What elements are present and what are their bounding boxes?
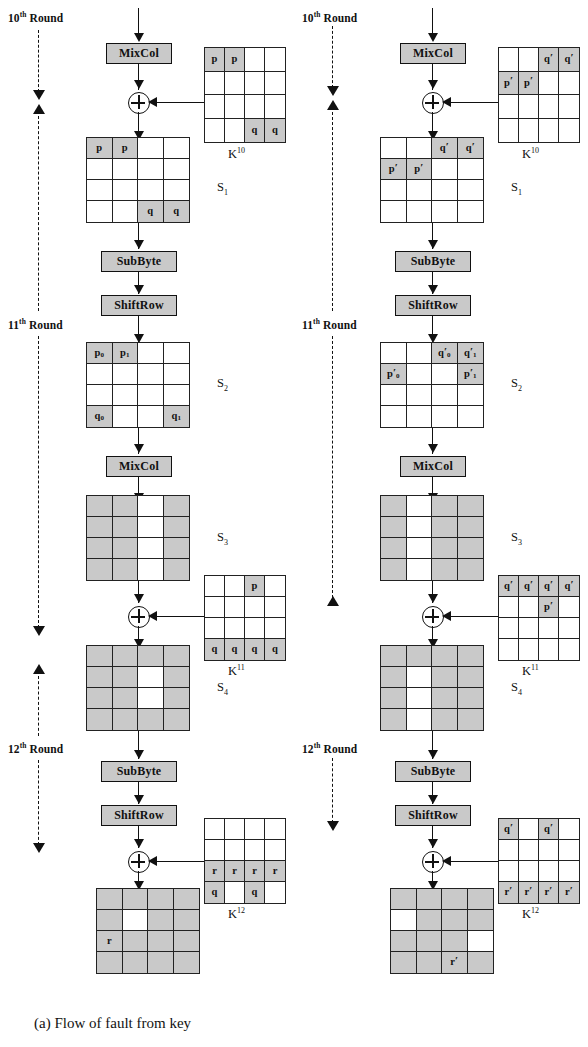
matrix-cell [138, 538, 164, 559]
round-span-line-12b [38, 760, 39, 845]
matrix-cell [432, 406, 458, 427]
matrix-k10: q′q′p′p′ [498, 47, 580, 143]
matrix-cell [148, 910, 174, 931]
matrix-cell [381, 517, 407, 538]
flow-arrow-s3-xor [134, 594, 144, 603]
op-subbyte-r12[interactable]: SubByte [395, 761, 471, 782]
round-span-arrow-up-11 [33, 104, 45, 114]
op-subbyte-r11[interactable]: SubByte [101, 251, 177, 272]
matrix-cell [458, 646, 484, 667]
matrix-cell [458, 385, 484, 406]
matrix-cell [87, 364, 113, 385]
matrix-cell: p [205, 48, 225, 72]
matrix-cell [468, 889, 494, 910]
matrix-cell [87, 201, 113, 222]
matrix-cell: q′1 [458, 343, 484, 364]
matrix-cell [265, 576, 285, 597]
matrix-label-s1: S1 [511, 180, 522, 197]
matrix-cell: q1 [164, 406, 190, 427]
matrix-cell [113, 538, 139, 559]
matrix-cell [559, 119, 579, 143]
matrix-cell [87, 159, 113, 180]
op-shiftrow-r11[interactable]: ShiftRow [101, 295, 177, 316]
matrix-cell: p′ [539, 597, 559, 618]
xor-k12 [128, 851, 150, 873]
matrix-cell [113, 688, 139, 709]
matrix-label-s1: S1 [217, 180, 228, 197]
matrix-cell [225, 72, 245, 96]
key-line-k10 [155, 102, 205, 103]
matrix-cell [138, 688, 164, 709]
matrix-cell [458, 180, 484, 201]
matrix-cell: r [245, 861, 265, 882]
matrix-cell [245, 819, 265, 840]
matrix-cell [417, 952, 443, 973]
matrix-cell [87, 180, 113, 201]
matrix-cell: q [245, 119, 265, 143]
op-subbyte-r12[interactable]: SubByte [101, 761, 177, 782]
matrix-cell [87, 385, 113, 406]
matrix-cell: r′ [499, 882, 519, 903]
key-arrow-k10 [148, 97, 157, 107]
op-shiftrow-r11[interactable]: ShiftRow [395, 295, 471, 316]
matrix-cell [164, 538, 190, 559]
matrix-cell [381, 688, 407, 709]
flow-arrow-s2-mixcol [428, 444, 438, 453]
matrix-label-k10: K10 [228, 146, 245, 162]
matrix-cell: q [265, 119, 285, 143]
matrix-cell [265, 618, 285, 639]
op-mixcol-r11[interactable]: MixCol [106, 456, 172, 477]
key-arrow-k11 [148, 611, 157, 621]
op-subbyte-r11[interactable]: SubByte [395, 251, 471, 272]
matrix-cell [499, 119, 519, 143]
matrix-cell [407, 688, 433, 709]
matrix-cell [225, 819, 245, 840]
matrix-label-s3: S3 [217, 530, 228, 547]
panel-a: 10th Round 11th Round 12th Round MixCol … [0, 0, 294, 1047]
op-mixcol-r10[interactable]: MixCol [400, 43, 466, 64]
matrix-cell [87, 646, 113, 667]
matrix-label-k12: K12 [228, 906, 245, 922]
round-span-line-10 [38, 30, 39, 92]
matrix-cell [539, 639, 559, 660]
matrix-cell [381, 385, 407, 406]
matrix-cell [164, 517, 190, 538]
matrix-cell: p′ [381, 159, 407, 180]
matrix-cell [225, 840, 245, 861]
matrix-s1: q′q′p′p′ [380, 137, 484, 223]
matrix-cell [113, 667, 139, 688]
matrix-cell: r′ [559, 882, 579, 903]
op-mixcol-r11[interactable]: MixCol [400, 456, 466, 477]
matrix-cell [499, 597, 519, 618]
matrix-cell: q′0 [432, 343, 458, 364]
key-line-k11 [155, 616, 205, 617]
matrix-cell: q [245, 882, 265, 903]
xor-k11 [128, 606, 150, 628]
matrix-k11: q′q′q′q′p′ [498, 575, 580, 661]
key-arrow-k12 [442, 856, 451, 866]
matrix-cell [148, 952, 174, 973]
key-line-k10 [449, 102, 499, 103]
matrix-cell [391, 889, 417, 910]
matrix-cell [174, 910, 200, 931]
op-mixcol-r10[interactable]: MixCol [106, 43, 172, 64]
op-shiftrow-r12[interactable]: ShiftRow [101, 805, 177, 826]
matrix-cell [458, 667, 484, 688]
matrix-cell [148, 889, 174, 910]
matrix-cell [407, 364, 433, 385]
matrix-cell [381, 343, 407, 364]
matrix-cell: p0 [87, 343, 113, 364]
matrix-cell [87, 688, 113, 709]
matrix-cell: q [205, 882, 225, 903]
matrix-cell [138, 406, 164, 427]
matrix-cell [123, 889, 149, 910]
flow-arrow-s4-subbyte [134, 750, 144, 759]
matrix-s4 [86, 645, 190, 731]
matrix-cell [432, 364, 458, 385]
matrix-cell: p′1 [458, 364, 484, 385]
matrix-cell: q [138, 201, 164, 222]
matrix-cell [407, 343, 433, 364]
op-shiftrow-r12[interactable]: ShiftRow [395, 805, 471, 826]
matrix-cell: q′ [499, 819, 519, 840]
matrix-cell [205, 119, 225, 143]
